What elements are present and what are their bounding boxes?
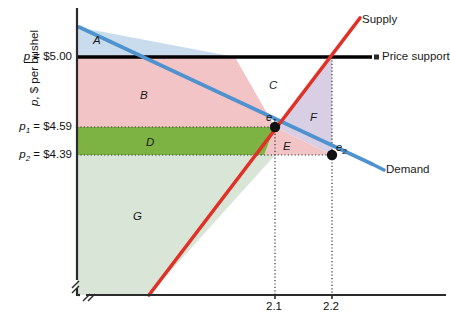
y-tick-label-p1: p1 = $4.59 <box>6 120 72 135</box>
supply-curve-label: Supply <box>362 13 397 25</box>
region-label-f: F <box>310 111 317 123</box>
region-label-c: C <box>269 79 277 91</box>
y-axis-title-units: , $ per bushel <box>28 30 40 100</box>
region-label-e: E <box>283 140 291 152</box>
price-support-label: Price support <box>382 50 450 62</box>
region-label-a: A <box>93 34 101 46</box>
point-e1-subscript: 1 <box>272 117 276 126</box>
y-tick-label-price-support: p = $5.00 <box>6 50 72 63</box>
x-tick-label-2-2: 2.2 <box>323 300 339 312</box>
demand-curve-label: Demand <box>386 163 429 175</box>
y-tick-value-p: = $5.00 <box>30 50 72 62</box>
demand-leader-line <box>372 164 384 170</box>
point-label-e2: e2 <box>336 141 347 156</box>
y-tick-value-p1: = $4.59 <box>30 120 72 132</box>
price-support-bullet <box>374 55 379 60</box>
region-label-g: G <box>133 210 142 222</box>
y-tick-label-p2: p2 = $4.39 <box>6 148 72 163</box>
y-axis-title-symbol: p <box>28 100 40 106</box>
point-e2-subscript: 2 <box>342 147 346 156</box>
point-label-e1: e1 <box>266 111 277 126</box>
y-tick-value-p2: = $4.39 <box>30 148 72 160</box>
region-label-d: D <box>146 136 154 148</box>
region-d-fill <box>77 127 275 155</box>
region-label-b: B <box>140 89 148 101</box>
x-tick-label-2-1: 2.1 <box>266 300 282 312</box>
